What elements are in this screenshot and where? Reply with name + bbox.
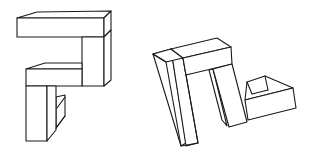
lower-column-side-face xyxy=(47,86,56,141)
notch-side-face xyxy=(56,95,65,128)
right-column-front-face xyxy=(82,37,104,86)
right-block-object xyxy=(153,38,296,146)
lower-column-front-face xyxy=(26,86,47,141)
right-column-side-face xyxy=(104,30,111,86)
top-bar-top-face xyxy=(17,11,111,18)
top-bar-front-face xyxy=(17,18,104,37)
mental-rotation-figure: Mental rotation task: two 3D block-cube … xyxy=(0,0,314,156)
middle-bar-top-face xyxy=(26,63,82,69)
middle-bar-front-face xyxy=(26,69,82,86)
left-block-object xyxy=(17,11,111,141)
